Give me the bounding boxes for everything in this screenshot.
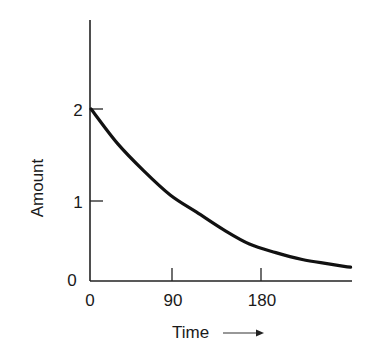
y-tick-label-0: 0 — [67, 271, 76, 290]
y-tick-label-1: 1 — [73, 193, 82, 212]
x-tick-label-0: 0 — [85, 291, 94, 310]
x-tick-label-180: 180 — [248, 291, 276, 310]
y-axis-label: Amount — [28, 158, 47, 217]
x-axis-label: Time — [172, 323, 209, 342]
decay-curve — [91, 109, 351, 267]
arrow-right-icon — [256, 330, 264, 337]
y-tick-label-2: 2 — [73, 101, 82, 120]
x-tick-label-90: 90 — [164, 291, 183, 310]
decay-chart: 2 1 0 0 90 180 Amount Time — [0, 0, 367, 358]
